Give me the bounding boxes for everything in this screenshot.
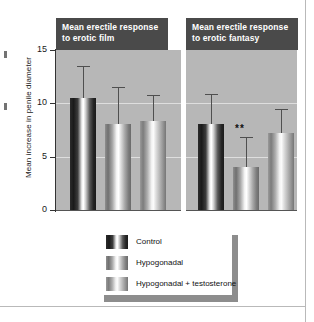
panel-baseline bbox=[56, 210, 181, 211]
page-frame-right-rule bbox=[305, 0, 306, 322]
plot-panel-erotic-film bbox=[56, 50, 181, 211]
legend-swatch-hypo bbox=[106, 256, 128, 270]
error-bar-stem bbox=[118, 87, 119, 123]
error-bar-cap bbox=[240, 137, 253, 138]
bar-control bbox=[70, 98, 96, 210]
significance-marker: ** bbox=[235, 124, 245, 134]
bar-control bbox=[198, 124, 224, 210]
y-axis-tick-label: 10 bbox=[23, 98, 47, 107]
figure-container: Mean increase in penile diameter 051015 … bbox=[0, 0, 314, 322]
legend-swatch-hypot bbox=[106, 277, 128, 291]
error-bar-stem bbox=[281, 109, 282, 134]
legend-label: Hypogonadal + testosterone bbox=[136, 279, 236, 288]
legend-label: Hypogonadal bbox=[136, 258, 183, 267]
panel-gridline bbox=[186, 103, 297, 104]
legend-box: ControlHypogonadalHypogonadal + testoste… bbox=[98, 228, 232, 295]
y-axis-title: Mean increase in penile diameter bbox=[24, 28, 33, 208]
error-bar-stem bbox=[246, 137, 247, 167]
error-bar-cap bbox=[205, 94, 218, 95]
panel-title-erotic-fantasy: Mean erectile response to erotic fantasy bbox=[186, 18, 298, 50]
error-bar-cap bbox=[275, 109, 288, 110]
plot-panel-erotic-fantasy: ** bbox=[186, 50, 297, 211]
bar-hypot bbox=[268, 133, 294, 210]
error-bar-stem bbox=[211, 94, 212, 124]
error-bar-cap bbox=[112, 87, 125, 88]
panel-baseline bbox=[186, 210, 297, 211]
panel-title-erotic-film: Mean erectile response to erotic film bbox=[56, 18, 168, 50]
page-frame-bottom-rule bbox=[0, 306, 306, 307]
error-bar-stem bbox=[83, 66, 84, 98]
error-bar-cap bbox=[147, 95, 160, 96]
bar-hypot bbox=[140, 121, 166, 210]
error-bar-cap bbox=[77, 66, 90, 67]
y-axis-tick-label: 15 bbox=[23, 45, 47, 54]
error-bar-stem bbox=[153, 95, 154, 122]
bar-hypo bbox=[105, 124, 131, 210]
y-axis-tick-label: 5 bbox=[23, 152, 47, 161]
legend-label: Control bbox=[136, 237, 162, 246]
page-margin-marks bbox=[4, 45, 7, 175]
bar-hypo bbox=[233, 167, 259, 210]
legend-swatch-control bbox=[106, 235, 128, 249]
y-axis-tick-label: 0 bbox=[23, 205, 47, 214]
